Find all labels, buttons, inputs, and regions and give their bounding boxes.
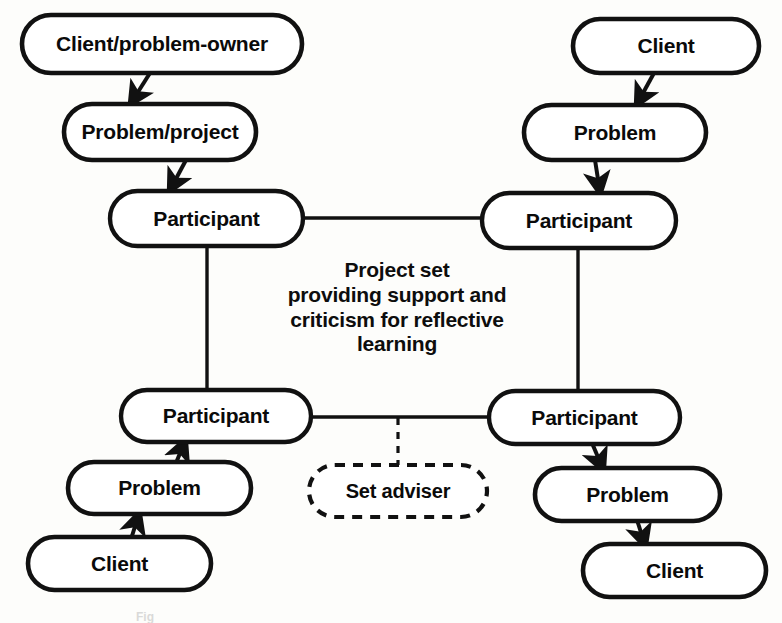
node-shape-participant-tr[interactable]	[482, 193, 676, 248]
node-shape-set-adviser[interactable]	[309, 465, 487, 517]
node-shape-participant-tl[interactable]	[110, 191, 303, 246]
node-shape-client-br[interactable]	[583, 544, 766, 597]
node-shape-problem-bl[interactable]	[68, 462, 251, 514]
project-set-note-line-1: Project set	[272, 258, 522, 283]
node-shape-participant-bl[interactable]	[121, 390, 311, 442]
arrow-client-owner-to-problem-project	[131, 73, 150, 103]
project-set-note-line-4: learning	[272, 332, 522, 357]
node-shape-client-tr[interactable]	[573, 19, 759, 73]
arrow-problem-project-to-participant-tl	[170, 160, 186, 190]
node-shape-participant-br[interactable]	[489, 391, 680, 444]
node-shape-problem-project-tl[interactable]	[64, 104, 256, 160]
arrow-participant-br-to-problem-br	[592, 443, 603, 469]
figure-canvas: Client/problem-owner Problem/project Par…	[0, 0, 782, 623]
project-set-note-line-2: providing support and	[272, 283, 522, 308]
project-set-note-line-3: criticism for reflective	[272, 308, 522, 333]
node-shape-client-bl[interactable]	[28, 537, 211, 590]
arrow-client-tr-to-problem-tr	[637, 73, 654, 104]
arrow-problem-tr-to-participant-tr	[595, 160, 600, 192]
node-shape-client-problem-owner-tl[interactable]	[22, 15, 302, 73]
project-set-note: Project set providing support and critic…	[272, 258, 522, 357]
arrow-problem-br-to-client-br	[637, 520, 645, 545]
node-shape-problem-tr[interactable]	[524, 105, 706, 160]
node-shape-problem-br[interactable]	[535, 468, 720, 521]
figure-caption-fragment: Fig	[136, 610, 154, 623]
